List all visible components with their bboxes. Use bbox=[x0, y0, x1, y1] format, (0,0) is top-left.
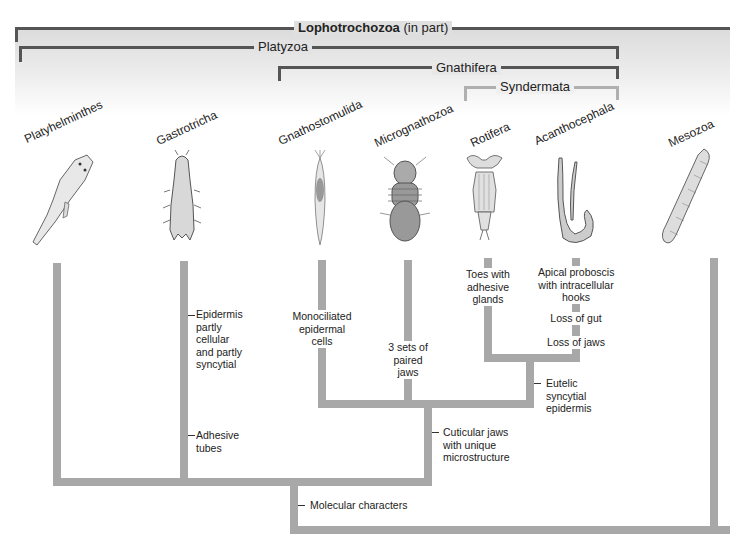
lophotrochozoa-bracket-left bbox=[15, 28, 18, 42]
branch-platyhelminthes bbox=[53, 263, 61, 486]
branch-platyzoa-join bbox=[53, 478, 432, 486]
syndermata-bracket-right bbox=[616, 86, 619, 100]
mesozoan-illustration bbox=[656, 145, 716, 250]
branch-root bbox=[290, 526, 730, 534]
tick-cuticular bbox=[432, 432, 439, 433]
character-molecular: Molecular characters bbox=[310, 499, 407, 512]
character-eutelic: Eutelic syncytial epidermis bbox=[546, 377, 592, 415]
clade-header-band bbox=[15, 30, 730, 115]
gastrotrich-illustration bbox=[160, 150, 205, 250]
gnathifera-label: Gnathifera bbox=[432, 61, 501, 75]
rotifer-illustration bbox=[462, 150, 507, 250]
tick-eutelic bbox=[534, 383, 541, 384]
gnathifera-bracket-right bbox=[616, 66, 619, 79]
character-cuticular: Cuticular jaws with unique microstructur… bbox=[443, 426, 510, 464]
platyzoa-bracket-right bbox=[616, 46, 619, 59]
character-apical-proboscis: Apical proboscis with intracellular hook… bbox=[538, 266, 614, 304]
syndermata-label: Syndermata bbox=[496, 80, 574, 94]
tick-adhesive-tubes bbox=[188, 435, 195, 436]
platyzoa-label: Platyzoa bbox=[254, 40, 312, 54]
platyzoa-bracket-top bbox=[19, 46, 619, 49]
gnathostomulid-illustration bbox=[305, 150, 335, 250]
branch-gastrotricha bbox=[180, 261, 188, 486]
syndermata-bracket-left bbox=[464, 87, 467, 101]
character-loss-of-gut: Loss of gut bbox=[546, 312, 606, 325]
character-loss-of-jaws: Loss of jaws bbox=[544, 336, 608, 349]
character-epidermis: Epidermis partly cellular and partly syn… bbox=[196, 308, 243, 371]
character-monociliated: Monociliated epidermal cells bbox=[290, 310, 354, 348]
gnathifera-bracket-left bbox=[278, 67, 281, 81]
micrognathozoan-illustration bbox=[378, 155, 433, 250]
spiny-headed-worm-illustration bbox=[545, 150, 605, 250]
flatworm-illustration bbox=[25, 150, 100, 250]
tick-epidermis bbox=[188, 315, 195, 316]
taxon-label-rotifera: Rotifera bbox=[468, 120, 512, 150]
character-three-jaws: 3 sets of paired jaws bbox=[384, 341, 432, 379]
tick-molecular bbox=[298, 505, 305, 506]
platyzoa-bracket-left bbox=[19, 47, 22, 62]
branch-gnathifera-stem bbox=[424, 400, 432, 486]
character-toes: Toes with adhesive glands bbox=[462, 268, 514, 306]
character-adhesive-tubes: Adhesive tubes bbox=[196, 429, 239, 454]
branch-mesozoa bbox=[710, 258, 718, 534]
branch-micrognathozoa bbox=[404, 260, 412, 408]
lophotrochozoa-label: Lophotrochozoa (in part) bbox=[294, 21, 452, 35]
